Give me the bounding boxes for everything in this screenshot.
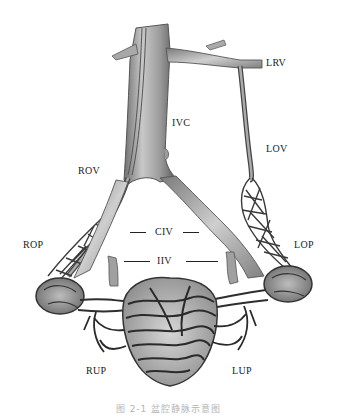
label-rov: ROV [78, 166, 100, 176]
label-iiv: IIV [157, 256, 172, 266]
rup-plexus [84, 312, 126, 352]
figure-caption: 图 2-1 盆腔静脉示意图 [0, 402, 337, 415]
label-rup: RUP [86, 366, 106, 376]
iiv-leader-left [124, 261, 150, 262]
lup-plexus [212, 306, 256, 350]
lov-vessel [240, 66, 252, 180]
pelvic-venous-diagram: LRV IVC LOV ROV CIV IIV ROP LOP RUP LUP [0, 0, 337, 400]
civ-leader-left [130, 232, 146, 233]
label-lrv: LRV [266, 58, 286, 68]
label-lop: LOP [294, 240, 314, 250]
label-ivc: IVC [172, 118, 190, 128]
iiv-leader-right [186, 261, 218, 262]
label-civ: CIV [155, 227, 173, 237]
right-ovary [36, 278, 84, 314]
lrv-vessel [166, 40, 262, 68]
uterus [123, 278, 218, 386]
label-lov: LOV [266, 144, 287, 154]
left-ovary [264, 266, 312, 302]
label-lup: LUP [232, 366, 252, 376]
civ-leader-right [183, 232, 199, 233]
vein-illustration [0, 0, 337, 400]
label-rop: ROP [23, 240, 43, 250]
